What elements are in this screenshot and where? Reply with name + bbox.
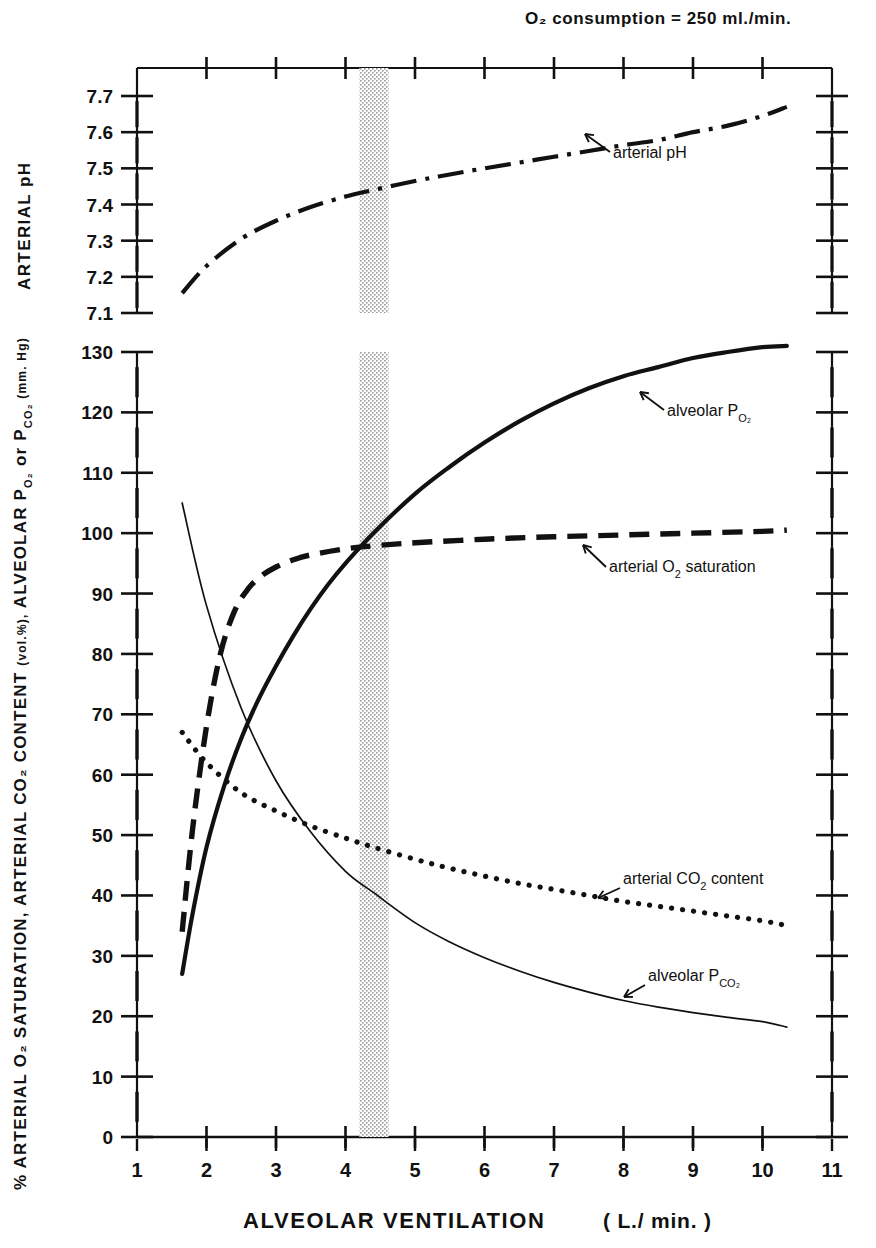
- top-panel-tick-label: 7.2: [87, 267, 113, 288]
- curve-annotations: arterial pHalveolar PO₂arterial O2 satur…: [583, 134, 764, 997]
- y-axis-labels: % ARTERIAL O₂ SATURATION, ARTERIAL CO₂ C…: [11, 337, 34, 1190]
- main-panel-tick-label: 130: [81, 342, 113, 363]
- x-axis-tick-label: 1: [131, 1159, 142, 1181]
- annotation-arterial-co2-content: arterial CO2 content: [623, 870, 764, 892]
- x-axis: 1234567891011ALVEOLAR VENTILATION( L./ m…: [131, 1139, 842, 1233]
- top-panel-tick-label: 7.5: [87, 158, 114, 179]
- x-axis-title: ALVEOLAR VENTILATION: [243, 1208, 546, 1233]
- x-axis-tick-label: 9: [687, 1159, 698, 1181]
- figure-root: O₂ consumption = 250 ml./min. 7.77.67.57…: [0, 0, 876, 1248]
- top-panel-tick-label: 7.1: [87, 303, 114, 324]
- top-panel-tick-label: 7.4: [87, 195, 114, 216]
- top-panel-tick-label: 7.6: [87, 122, 113, 143]
- main-panel: 1301201101009080706050403020100: [81, 342, 848, 1148]
- x-axis-tick-label: 7: [548, 1159, 559, 1181]
- annotation-leader: [583, 545, 606, 567]
- annotation-leader: [640, 392, 664, 410]
- series-arterial-ph: [182, 107, 787, 293]
- annotation-arterial-o2-sat: arterial O2 saturation: [609, 558, 756, 580]
- normal-ventilation-band: [359, 68, 388, 1137]
- header-note: O₂ consumption = 250 ml./min.: [525, 9, 791, 28]
- annotation-alveolar-pco2: alveolar PCO₂: [648, 967, 740, 989]
- x-axis-tick-label: 10: [751, 1159, 773, 1181]
- x-axis-tick-label: 4: [340, 1159, 352, 1181]
- top-panel-tick-label: 7.7: [87, 86, 113, 107]
- x-axis-tick-label: 6: [479, 1159, 490, 1181]
- x-axis-tick-label: 11: [821, 1159, 842, 1181]
- main-panel-tick-label: 70: [92, 704, 113, 725]
- main-panel-tick-label: 120: [81, 402, 113, 423]
- main-panel-axis-label: % ARTERIAL O₂ SATURATION, ARTERIAL CO₂ C…: [11, 337, 34, 1190]
- main-panel-tick-label: 110: [82, 463, 113, 484]
- top-panel: 7.77.67.57.47.37.27.1ARTERIAL pH: [15, 57, 848, 324]
- x-axis-units: ( L./ min. ): [603, 1209, 712, 1232]
- main-panel-tick-label: 20: [92, 1006, 113, 1027]
- main-panel-tick-label: 0: [102, 1127, 113, 1148]
- chart-canvas: O₂ consumption = 250 ml./min. 7.77.67.57…: [0, 0, 876, 1248]
- main-panel-tick-label: 10: [92, 1067, 113, 1088]
- x-axis-tick-label: 3: [270, 1159, 281, 1181]
- main-panel-tick-label: 30: [92, 946, 113, 967]
- main-panel-tick-label: 50: [92, 825, 113, 846]
- main-panel-tick-label: 80: [92, 644, 113, 665]
- main-panel-tick-label: 60: [92, 765, 113, 786]
- x-axis-tick-label: 2: [201, 1159, 212, 1181]
- series-arterial-co2-content: [182, 732, 787, 925]
- series-alveolar-pco2: [182, 503, 787, 1027]
- main-panel-tick-label: 90: [92, 584, 113, 605]
- arrow-head: [598, 898, 607, 899]
- band-main-segment: [359, 352, 388, 1137]
- main-panel-tick-label: 40: [92, 885, 113, 906]
- annotation-alveolar-po2: alveolar PO₂: [667, 402, 751, 424]
- x-axis-tick-label: 8: [618, 1159, 629, 1181]
- annotation-arterial-ph: arterial pH: [613, 144, 687, 161]
- top-panel-tick-label: 7.3: [87, 231, 113, 252]
- x-axis-tick-label: 5: [409, 1159, 420, 1181]
- main-panel-tick-label: 100: [81, 523, 113, 544]
- top-panel-axis-label: ARTERIAL pH: [15, 162, 34, 290]
